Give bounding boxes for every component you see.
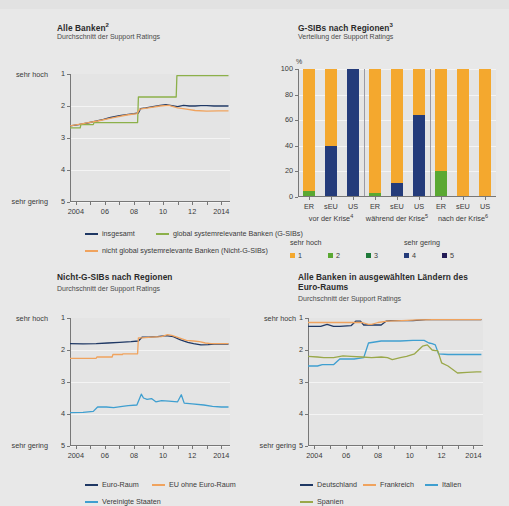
panel4-subtitle: Durchschnitt der Support Ratings xyxy=(298,294,401,303)
x-axis-tick xyxy=(441,197,442,200)
panel2-plot-area: 100806040200ERsEUUSERsEUUSERsEUUSvor der… xyxy=(298,69,496,197)
x-axis-tick-label: 08 xyxy=(118,207,150,216)
x-axis-tick xyxy=(458,446,459,449)
x-axis-tick xyxy=(149,202,150,205)
x-axis-tick xyxy=(426,446,427,449)
bar-seu-4 xyxy=(391,69,402,197)
panel2-subtitle: Verteilung der Support Ratings xyxy=(298,32,393,41)
x-axis-tick-label: 08 xyxy=(118,451,150,460)
panel2-unit-label: % xyxy=(296,58,302,65)
bar-segment-rating-4 xyxy=(413,115,424,197)
bar-segment-rating-1 xyxy=(391,69,402,183)
y-axis-tick-label: 2 xyxy=(48,101,65,110)
panel1-y-bottom-label: sehr gering xyxy=(2,197,48,206)
bar-segment-rating-2 xyxy=(435,171,446,197)
x-axis-tick xyxy=(163,446,164,449)
x-axis-tick-label: 10 xyxy=(147,207,179,216)
bar-segment-rating-1 xyxy=(435,69,446,171)
bar-us-8 xyxy=(479,69,490,197)
y-axis-tick-label: 2 xyxy=(286,345,303,354)
x-axis-tick xyxy=(314,446,315,449)
panel-nicht-gsibs-nach-regionen: Nicht-G-SIBs nach Regionen Durchschnitt … xyxy=(0,261,260,506)
panel1-subtitle: Durchschnitt der Support Ratings xyxy=(57,32,160,41)
x-axis-tick xyxy=(353,197,354,200)
y-axis-tick-label: 5 xyxy=(48,441,65,450)
page-top-strip xyxy=(0,0,509,9)
y-axis-tick-label: 5 xyxy=(286,441,303,450)
x-axis-tick xyxy=(331,197,332,200)
panel1-plot-area: 123452004060810122014 xyxy=(70,74,230,202)
x-axis-tick-label: 2004 xyxy=(60,207,92,216)
panel4-title: Alle Banken in ausgewählten Ländern des … xyxy=(298,272,468,292)
bar-us-5 xyxy=(413,69,424,197)
x-axis-tick xyxy=(346,446,347,449)
x-axis-tick xyxy=(134,202,135,205)
x-axis-tick xyxy=(105,446,106,449)
x-axis-tick xyxy=(163,202,164,205)
y-axis-tick-label: 1 xyxy=(48,313,65,322)
panel3-series-layer xyxy=(70,318,230,446)
panel-alle-banken-euroraum: Alle Banken in ausgewählten Ländern des … xyxy=(260,261,509,506)
bar-period-text: nach der Krise xyxy=(438,214,485,223)
y-axis-tick-label: 5 xyxy=(48,197,65,206)
x-axis-tick xyxy=(330,446,331,449)
x-axis-tick xyxy=(90,202,91,205)
panel4-plot-area: 123452004060810122014 xyxy=(308,318,483,446)
bar-period-label-2: nach der Krise6 xyxy=(419,213,507,223)
y-axis-tick-label: 3 xyxy=(48,133,65,142)
panel1-y-top-label: sehr hoch xyxy=(6,70,48,79)
x-axis-tick xyxy=(105,202,106,205)
x-axis-tick xyxy=(394,446,395,449)
x-axis-tick xyxy=(76,446,77,449)
panel3-plot-area: 123452004060810122014 xyxy=(70,318,230,446)
x-axis-tick-label: 2014 xyxy=(457,451,489,460)
x-axis-tick xyxy=(378,446,379,449)
x-axis-tick xyxy=(362,446,363,449)
panel3-y-top-label: sehr hoch xyxy=(6,314,48,323)
y-axis-tick-label: 20 xyxy=(274,166,293,175)
x-axis-tick-label: 10 xyxy=(394,451,426,460)
x-axis-tick xyxy=(485,197,486,200)
y-axis-tick xyxy=(305,446,308,447)
panel1-series-layer xyxy=(70,74,230,202)
y-axis-line xyxy=(298,69,299,197)
bar-period-footnote: 6 xyxy=(485,213,488,219)
y-axis-tick-label: 60 xyxy=(274,115,293,124)
panel-gsibs-nach-regionen: G-SIBs nach Regionen3 Verteilung der Sup… xyxy=(260,9,509,259)
x-axis-tick xyxy=(397,197,398,200)
y-axis-tick-label: 0 xyxy=(274,192,293,201)
bar-segment-rating-1 xyxy=(413,69,424,115)
bar-period-text: während der Krise xyxy=(366,214,425,223)
bar-er-6 xyxy=(435,69,446,197)
x-axis-tick-label: 06 xyxy=(89,451,121,460)
x-axis-tick xyxy=(178,446,179,449)
series-line-vereinigte-staaten xyxy=(70,394,229,413)
bar-er-0 xyxy=(303,69,314,197)
x-axis-tick xyxy=(473,446,474,449)
bar-segment-rating-1 xyxy=(303,69,314,191)
bar-segment-rating-4 xyxy=(391,183,402,197)
y-axis-tick-label: 80 xyxy=(274,90,293,99)
series-line-frankreich xyxy=(308,320,481,325)
x-axis-tick-label: 06 xyxy=(89,207,121,216)
panel3-y-bottom-label: sehr gering xyxy=(2,441,48,450)
y-axis-tick-label: 4 xyxy=(48,165,65,174)
x-axis-tick-label: 10 xyxy=(147,451,179,460)
x-axis-tick xyxy=(90,446,91,449)
x-axis-tick xyxy=(207,202,208,205)
x-axis-tick xyxy=(119,446,120,449)
x-axis-tick xyxy=(375,197,376,200)
y-axis-tick-label: 4 xyxy=(48,409,65,418)
y-axis-tick-label: 3 xyxy=(48,377,65,386)
x-axis-tick xyxy=(149,446,150,449)
x-axis-tick xyxy=(442,446,443,449)
bar-group-label-8: US xyxy=(469,202,501,211)
y-axis-tick-label: 40 xyxy=(274,141,293,150)
panel-alle-banken: Alle Banken2 Durchschnitt der Support Ra… xyxy=(0,9,260,259)
bar-segment-rating-1 xyxy=(457,69,468,197)
x-axis-tick xyxy=(192,446,193,449)
y-axis-tick-label: 3 xyxy=(286,377,303,386)
panel1-title: Alle Banken2 xyxy=(57,20,109,33)
x-axis-tick xyxy=(119,202,120,205)
bar-us-2 xyxy=(347,69,358,197)
